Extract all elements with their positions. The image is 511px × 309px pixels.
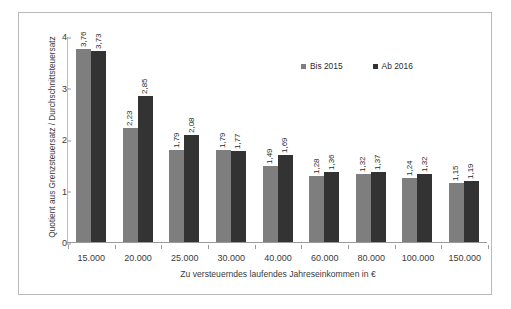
bar-value-label: 1,24 [405, 150, 415, 176]
bar-value-label-text: 1,15 [452, 165, 460, 181]
bar[interactable] [123, 128, 138, 242]
x-axis-category-label: 20.000 [124, 253, 152, 263]
x-axis-category-label: 25.000 [171, 253, 199, 263]
bar-group: 1,791,77 [208, 37, 255, 242]
bar-group: 1,792,08 [161, 37, 208, 242]
bar[interactable] [464, 181, 479, 242]
bar-value-label-text: 1,19 [467, 163, 475, 179]
bar-item[interactable]: 1,79 [216, 37, 231, 242]
x-axis-tick-mark [441, 245, 442, 249]
x-axis-category: 15.000 [68, 245, 115, 263]
x-axis-tick-mark [301, 245, 302, 249]
bar-value-label-text: 1,69 [281, 138, 289, 154]
x-axis-category: 100.000 [395, 245, 442, 263]
bar[interactable] [356, 174, 371, 242]
bar-value-label-text: 2,85 [141, 78, 149, 94]
bar[interactable] [417, 174, 432, 242]
x-axis-category-label: 60.000 [311, 253, 339, 263]
bar-value-label-text: 3,76 [80, 32, 88, 48]
bar-item[interactable]: 1,49 [263, 37, 278, 242]
legend-swatch-icon [373, 64, 378, 69]
bar-value-label: 1,79 [218, 122, 228, 148]
bar-value-label: 3,76 [79, 21, 89, 47]
bar-value-label: 1,77 [233, 123, 243, 149]
bar[interactable] [138, 96, 153, 242]
bar-item[interactable]: 3,76 [76, 37, 91, 242]
bar-value-label-text: 2,08 [188, 118, 196, 134]
x-axis-tick-mark [161, 245, 162, 249]
x-axis-category: 60.000 [301, 245, 348, 263]
bar[interactable] [263, 166, 278, 242]
bar-groups: 3,763,732,232,851,792,081,791,771,491,69… [68, 37, 487, 242]
y-axis-tick-mark [67, 243, 71, 244]
y-axis-tick: 4 [43, 33, 67, 42]
y-axis-tick: 2 [43, 136, 67, 145]
bar-value-label: 2,85 [140, 68, 150, 94]
bar[interactable] [216, 150, 231, 242]
bar[interactable] [324, 172, 339, 242]
x-axis-category-label: 30.000 [218, 253, 246, 263]
bar[interactable] [371, 172, 386, 242]
bar-value-label: 2,08 [187, 107, 197, 133]
bar-value-label: 1,79 [172, 122, 182, 148]
x-axis-title: Zu versteuerndes laufendes Jahreseinkomm… [68, 269, 488, 279]
bar-value-label-text: 1,24 [406, 161, 414, 177]
bar-item[interactable]: 1,32 [417, 37, 432, 242]
legend-item-label: Bis 2015 [310, 61, 343, 71]
bar-group: 1,491,69 [254, 37, 301, 242]
bar-value-label: 1,15 [451, 155, 461, 181]
chart-frame: Quotient aus Grenzsteuersatz / Durchschn… [18, 12, 492, 295]
bar-value-label: 1,37 [373, 144, 383, 170]
bar-item[interactable]: 1,79 [169, 37, 184, 242]
bar-item[interactable]: 2,85 [138, 37, 153, 242]
bar-group: 1,151,19 [441, 37, 488, 242]
bar[interactable] [449, 183, 464, 242]
y-axis-tick: 0 [43, 239, 67, 248]
bar-item[interactable]: 1,77 [231, 37, 246, 242]
x-axis-tick-mark [208, 245, 209, 249]
bar-group: 2,232,85 [115, 37, 162, 242]
bar[interactable] [309, 176, 324, 242]
legend-item[interactable]: Bis 2015 [301, 61, 343, 71]
bar-value-label-text: 3,73 [95, 33, 103, 49]
bar-value-label-text: 1,37 [374, 154, 382, 170]
legend-item[interactable]: Ab 2016 [373, 61, 413, 71]
bar-value-label: 2,23 [125, 100, 135, 126]
bar[interactable] [91, 51, 106, 242]
bar-value-label-text: 1,49 [266, 148, 274, 164]
x-axis-tick-mark [68, 245, 69, 249]
bar[interactable] [169, 150, 184, 242]
x-axis-category: 30.000 [208, 245, 255, 263]
bar-value-label: 1,49 [265, 138, 275, 164]
plot-area: 01234 3,763,732,232,851,792,081,791,771,… [67, 37, 487, 243]
bar-value-label-text: 1,79 [219, 133, 227, 149]
bar-item[interactable]: 3,73 [91, 37, 106, 242]
bar-value-label: 1,36 [327, 144, 337, 170]
bar-value-label-text: 1,32 [421, 157, 429, 173]
legend-item-label: Ab 2016 [382, 61, 413, 71]
x-axis-category-label: 15.000 [78, 253, 106, 263]
bar-item[interactable]: 2,08 [184, 37, 199, 242]
bar-value-label-text: 1,79 [173, 133, 181, 149]
bar-value-label-text: 1,77 [234, 134, 242, 150]
bar-value-label: 1,69 [280, 127, 290, 153]
x-axis-category-label: 150.000 [448, 253, 481, 263]
bar[interactable] [402, 178, 417, 242]
bar[interactable] [184, 135, 199, 242]
x-axis-category: 150.000 [441, 245, 488, 263]
bar-value-label: 1,28 [312, 148, 322, 174]
x-axis-tick-end [488, 245, 489, 249]
x-axis-category-label: 80.000 [358, 253, 386, 263]
bar-item[interactable]: 1,19 [464, 37, 479, 242]
bar-item[interactable]: 2,23 [123, 37, 138, 242]
y-axis-tick: 3 [43, 84, 67, 93]
bar-value-label: 1,32 [358, 146, 368, 172]
bar-item[interactable]: 1,15 [449, 37, 464, 242]
bar[interactable] [278, 155, 293, 242]
bar-item[interactable]: 1,69 [278, 37, 293, 242]
bar-group: 3,763,73 [68, 37, 115, 242]
bar[interactable] [231, 151, 246, 242]
x-axis-category: 25.000 [161, 245, 208, 263]
x-axis-categories: 15.00020.00025.00030.00040.00060.00080.0… [68, 245, 488, 263]
bar[interactable] [76, 49, 91, 242]
